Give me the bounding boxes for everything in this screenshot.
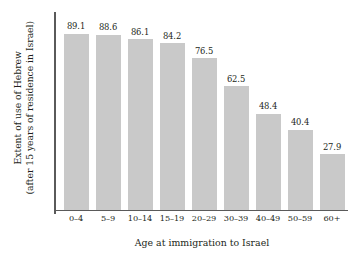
- bar-value-label: 27.9: [312, 142, 352, 152]
- x-axis-tick-label: 0–4: [60, 213, 92, 223]
- x-axis-tick-label: 50–59: [284, 213, 316, 223]
- x-axis-tick-label: 10–14: [124, 213, 156, 223]
- x-axis-tick-label: 5–9: [92, 213, 124, 223]
- y-axis-title: Extent of use of Hebrew (after 15 years …: [0, 0, 48, 215]
- plot-area: 89.188.686.184.276.562.548.440.427.9: [54, 12, 350, 210]
- x-axis-line: [54, 210, 348, 212]
- bar: [96, 35, 121, 210]
- bar-column: 76.5: [188, 12, 220, 210]
- y-axis-title-line2: (after 15 years of residence in Israel): [24, 21, 36, 195]
- bar: [128, 39, 153, 209]
- bar: [288, 130, 313, 210]
- bar: [224, 86, 249, 209]
- x-axis-tick-label: 60+: [316, 213, 348, 223]
- bar-column: 88.6: [92, 12, 124, 210]
- bar-chart: Extent of use of Hebrew (after 15 years …: [0, 0, 356, 265]
- x-axis-title: Age at immigration to Israel: [54, 237, 350, 248]
- x-axis-tick-label: 30–39: [220, 213, 252, 223]
- bar: [256, 114, 281, 210]
- bar-value-label: 62.5: [216, 74, 256, 84]
- bar-series: 89.188.686.184.276.562.548.440.427.9: [60, 12, 348, 210]
- bar-value-label: 84.2: [152, 31, 192, 41]
- bar-value-label: 48.4: [248, 101, 288, 111]
- x-axis-tick-labels: 0–45–910–1415–1920–2930–3940–4950–5960+: [60, 213, 348, 223]
- bar-column: 40.4: [284, 12, 316, 210]
- x-axis-tick-label: 40–49: [252, 213, 284, 223]
- x-axis-tick-label: 15–19: [156, 213, 188, 223]
- y-axis-title-line1: Extent of use of Hebrew: [12, 21, 24, 195]
- bar-column: 48.4: [252, 12, 284, 210]
- bar: [320, 154, 345, 209]
- bar: [192, 58, 217, 209]
- x-axis-tick-label: 20–29: [188, 213, 220, 223]
- bar-value-label: 76.5: [184, 46, 224, 56]
- y-axis-line: [54, 12, 56, 214]
- bar: [64, 34, 89, 210]
- bar-value-label: 40.4: [280, 117, 320, 127]
- bar-column: 86.1: [124, 12, 156, 210]
- bar-column: 89.1: [60, 12, 92, 210]
- y-axis-title-text: Extent of use of Hebrew (after 15 years …: [12, 21, 36, 195]
- bar-column: 27.9: [316, 12, 348, 210]
- bar-column: 84.2: [156, 12, 188, 210]
- bar: [160, 43, 185, 209]
